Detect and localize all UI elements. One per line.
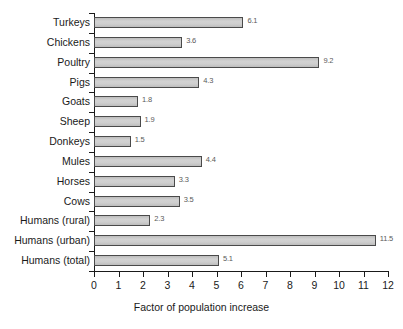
x-axis-tick-label: 2 [131, 279, 155, 291]
x-axis-tick [192, 272, 193, 277]
x-axis-tick [315, 272, 316, 277]
y-axis-tick [89, 172, 94, 173]
bar-value-label: 2.3 [154, 214, 164, 223]
x-axis-title: Factor of population increase [0, 301, 403, 313]
bar [94, 255, 219, 266]
bar-row: 3.6 [94, 33, 388, 53]
bar-value-label: 3.5 [184, 195, 194, 204]
category-label: Goats [0, 92, 90, 112]
bar-value-label: 1.9 [145, 115, 155, 124]
bar-value-label: 4.3 [203, 76, 213, 85]
y-axis-tick [89, 231, 94, 232]
category-axis-labels: TurkeysChickensPoultryPigsGoatsSheepDonk… [0, 13, 90, 271]
x-axis-tick [388, 272, 389, 277]
y-axis-tick [89, 132, 94, 133]
bar-value-label: 4.4 [206, 155, 216, 164]
bar-value-label: 9.2 [323, 56, 333, 65]
bar-row: 1.8 [94, 92, 388, 112]
bar [94, 37, 182, 48]
bar-row: 3.3 [94, 172, 388, 192]
bar-value-label: 11.5 [380, 234, 393, 243]
x-axis-tick [290, 272, 291, 277]
x-axis-tick-label: 12 [376, 279, 400, 291]
bar-row: 3.5 [94, 192, 388, 212]
category-label: Poultry [0, 53, 90, 73]
bar [94, 77, 199, 88]
bar-row: 4.4 [94, 152, 388, 172]
bar-value-label: 1.5 [135, 135, 145, 144]
y-axis-tick [89, 271, 94, 272]
bar [94, 116, 141, 127]
y-axis-tick [89, 112, 94, 113]
x-axis-tick-label: 5 [205, 279, 229, 291]
bar [94, 96, 138, 107]
y-axis-tick [89, 152, 94, 153]
category-label: Humans (rural) [0, 211, 90, 231]
y-axis-tick [89, 53, 94, 54]
x-axis-tick-label: 7 [254, 279, 278, 291]
bar-value-label: 3.6 [186, 36, 196, 45]
bar-chart: TurkeysChickensPoultryPigsGoatsSheepDonk… [0, 0, 403, 329]
x-axis-tick [168, 272, 169, 277]
x-axis-tick-label: 0 [82, 279, 106, 291]
bar [94, 136, 131, 147]
x-axis-tick [364, 272, 365, 277]
x-axis-tick-label: 3 [156, 279, 180, 291]
x-axis-tick-label: 11 [352, 279, 376, 291]
bar [94, 17, 243, 28]
y-axis-tick [89, 192, 94, 193]
category-label: Donkeys [0, 132, 90, 152]
category-label: Turkeys [0, 13, 90, 33]
y-axis-tick [89, 33, 94, 34]
y-axis-tick [89, 73, 94, 74]
y-axis-tick [89, 211, 94, 212]
x-axis-tick [339, 272, 340, 277]
x-axis-tick [266, 272, 267, 277]
category-label: Cows [0, 192, 90, 212]
y-axis-tick [89, 13, 94, 14]
x-axis-tick [241, 272, 242, 277]
y-axis-tick [89, 92, 94, 93]
x-axis-tick-label: 8 [278, 279, 302, 291]
x-axis-tick-label: 9 [303, 279, 327, 291]
bar-row: 5.1 [94, 251, 388, 271]
bar-value-label: 3.3 [179, 175, 189, 184]
bar-value-label: 6.1 [247, 16, 257, 25]
x-axis-tick [119, 272, 120, 277]
category-label: Humans (urban) [0, 231, 90, 251]
x-axis-tick [217, 272, 218, 277]
y-axis-tick [89, 251, 94, 252]
bar [94, 176, 175, 187]
bar-row: 9.2 [94, 53, 388, 73]
bar-value-label: 1.8 [142, 95, 152, 104]
bar [94, 235, 376, 246]
bar-row: 6.1 [94, 13, 388, 33]
bar-row: 2.3 [94, 211, 388, 231]
bar [94, 196, 180, 207]
bar-row: 1.5 [94, 132, 388, 152]
category-label: Sheep [0, 112, 90, 132]
category-label: Mules [0, 152, 90, 172]
plot-area: 6.13.69.24.31.81.91.54.43.33.52.311.55.1 [94, 13, 388, 271]
category-label: Horses [0, 172, 90, 192]
bar [94, 57, 319, 68]
bar-value-label: 5.1 [223, 254, 233, 263]
bar-row: 1.9 [94, 112, 388, 132]
category-label: Pigs [0, 73, 90, 93]
x-axis-tick [94, 272, 95, 277]
x-axis-tick-label: 10 [327, 279, 351, 291]
x-axis-tick-label: 6 [229, 279, 253, 291]
bar [94, 215, 150, 226]
category-label: Humans (total) [0, 251, 90, 271]
bar [94, 156, 202, 167]
x-axis-tick-label: 4 [180, 279, 204, 291]
bar-row: 4.3 [94, 73, 388, 93]
x-axis-tick [143, 272, 144, 277]
category-label: Chickens [0, 33, 90, 53]
x-axis-tick-label: 1 [107, 279, 131, 291]
bar-row: 11.5 [94, 231, 388, 251]
